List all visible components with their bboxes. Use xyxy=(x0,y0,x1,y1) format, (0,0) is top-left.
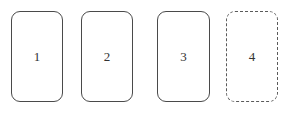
box-3[interactable]: 3 xyxy=(157,11,210,102)
box-2[interactable]: 2 xyxy=(81,11,133,102)
box-1[interactable]: 1 xyxy=(11,11,63,102)
box-4-placeholder[interactable]: 4 xyxy=(226,11,278,102)
box-4-label: 4 xyxy=(249,50,256,63)
box-3-label: 3 xyxy=(180,50,187,63)
box-2-label: 2 xyxy=(104,50,111,63)
box-1-label: 1 xyxy=(34,50,41,63)
diagram-canvas: 1 2 3 4 xyxy=(0,0,291,114)
